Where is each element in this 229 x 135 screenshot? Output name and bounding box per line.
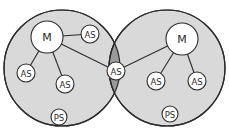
node-as5: AS	[188, 72, 206, 90]
node-as3: AS	[56, 75, 74, 93]
node-ps1: PS	[51, 109, 67, 125]
node-as2: AS	[17, 64, 35, 82]
node-label: AS	[59, 80, 70, 90]
node-as_shared: AS	[107, 62, 125, 80]
node-label: PS	[54, 113, 65, 123]
node-ps2: PS	[162, 106, 178, 122]
node-label: M	[42, 31, 52, 44]
node-label: AS	[20, 69, 31, 79]
network-diagram: MASASASPSASMASASPS	[0, 0, 229, 135]
node-label: PS	[165, 110, 176, 120]
node-m2: M	[166, 23, 198, 55]
node-label: AS	[150, 77, 161, 87]
node-as1: AS	[81, 25, 99, 43]
node-label: AS	[110, 67, 121, 77]
node-as4: AS	[147, 72, 165, 90]
node-label: AS	[191, 77, 202, 87]
node-m1: M	[31, 21, 63, 53]
node-label: M	[177, 33, 187, 46]
node-label: AS	[84, 30, 95, 40]
